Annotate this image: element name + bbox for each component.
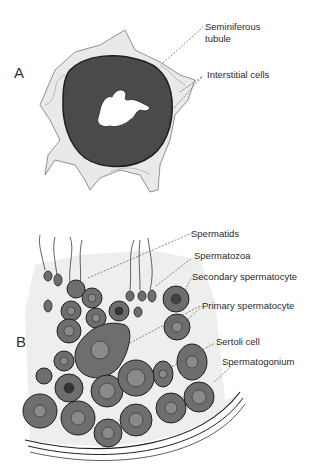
panel-a-letter: A [14, 64, 24, 81]
label-seminiferous-tubule-line2: tubule [205, 33, 231, 44]
panel-b-letter: B [16, 333, 26, 350]
label-interstitial-cells: Interstitial cells [207, 69, 269, 80]
label-sertoli-cell: Sertoli cell [216, 336, 260, 347]
label-spermatids: Spermatids [191, 228, 239, 239]
label-primary-spermatocyte: Primary spermatocyte [202, 300, 294, 311]
seminiferous-tubule-cross-section [63, 56, 172, 167]
label-seminiferous-tubule-line1: Seminiferous [205, 21, 260, 32]
label-spermatogonium: Spermatogonium [222, 356, 294, 367]
diagram-canvas [0, 0, 319, 470]
label-secondary-spermatocyte: Secondary spermatocyte [192, 271, 297, 282]
label-spermatozoa: Spermatozoa [194, 250, 251, 261]
